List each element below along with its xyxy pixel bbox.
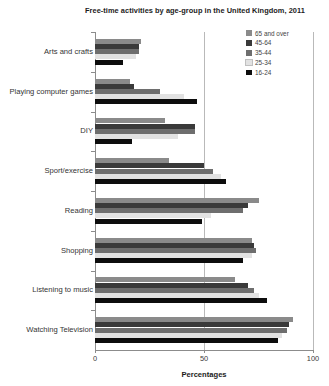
legend-label: 35-44	[255, 49, 271, 56]
category-label: Watching Television	[26, 325, 93, 334]
legend-item[interactable]: 25-34	[246, 58, 326, 66]
x-tick	[204, 350, 205, 353]
legend-label: 45-64	[255, 39, 271, 46]
legend: 65 and over45-6435-4425-3416-24	[246, 29, 326, 78]
bar	[95, 60, 123, 65]
category-label: Sport/exercise	[44, 166, 93, 175]
x-tick-label: 0	[93, 354, 97, 363]
category-label: Reading	[65, 206, 93, 215]
chart-title: Free-time activities by age-group in the…	[85, 6, 329, 16]
bar	[95, 298, 267, 303]
category-tick	[91, 271, 95, 272]
legend-item[interactable]: 35-44	[246, 49, 326, 57]
category-tick	[91, 310, 95, 311]
category-tick	[91, 112, 95, 113]
legend-swatch-icon	[246, 40, 252, 46]
category-label: Listening to music	[32, 285, 93, 294]
category-label: Playing computer games	[9, 87, 93, 96]
legend-label: 65 and over	[255, 30, 289, 37]
legend-item[interactable]: 65 and over	[246, 29, 326, 37]
bar	[95, 179, 226, 184]
category-label: Arts and crafts	[44, 47, 93, 56]
bar	[95, 99, 197, 104]
legend-label: 25-34	[255, 59, 271, 66]
legend-item[interactable]: 16-24	[246, 68, 326, 76]
gridline	[313, 32, 314, 350]
chart-container: Free-time activities by age-group in the…	[0, 0, 329, 386]
category-label: Shopping	[61, 246, 93, 255]
legend-item[interactable]: 45-64	[246, 39, 326, 47]
category-tick	[91, 151, 95, 152]
legend-swatch-icon	[246, 30, 252, 36]
category-tick	[91, 72, 95, 73]
x-axis-title: Percentages	[95, 370, 313, 379]
x-tick-label: 50	[200, 354, 208, 363]
bar	[95, 219, 202, 224]
legend-label: 16-24	[255, 69, 271, 76]
x-tick	[313, 350, 314, 353]
category-tick	[91, 231, 95, 232]
plot-area: 050100	[95, 32, 313, 350]
bar	[95, 139, 132, 144]
x-tick-label: 100	[307, 354, 319, 363]
category-tick	[91, 32, 95, 33]
x-tick	[95, 350, 96, 353]
legend-swatch-icon	[246, 50, 252, 56]
category-tick	[91, 191, 95, 192]
category-label: DIY	[80, 126, 93, 135]
bar	[95, 338, 278, 343]
bar	[95, 258, 243, 263]
legend-swatch-icon	[246, 60, 252, 66]
legend-swatch-icon	[246, 70, 252, 76]
